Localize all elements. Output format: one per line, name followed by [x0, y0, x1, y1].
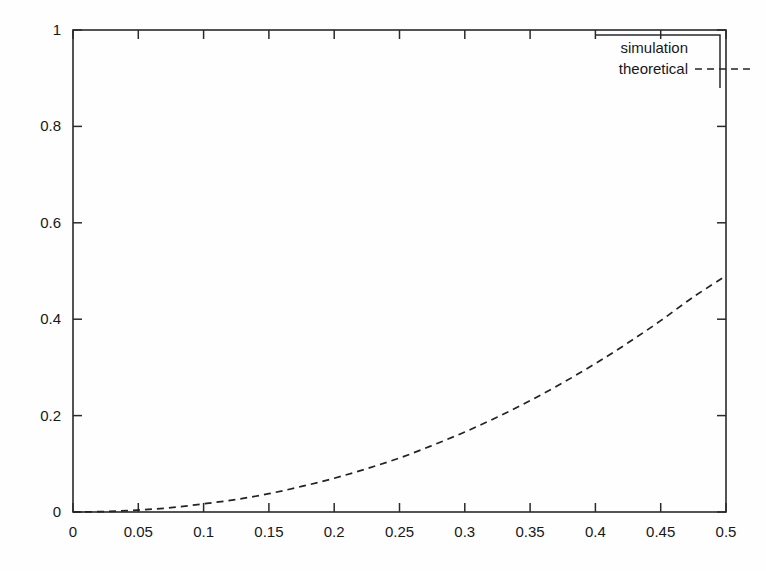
- x-tick-label: 0.2: [324, 523, 345, 540]
- x-tick-label: 0.4: [585, 523, 606, 540]
- legend-label-theoretical: theoretical: [619, 60, 688, 77]
- x-tick-label: 0.3: [454, 523, 475, 540]
- y-tick-label: 0: [53, 503, 61, 520]
- y-tick-label: 0.8: [40, 117, 61, 134]
- figure-background: [0, 0, 766, 571]
- x-tick-label: 0.05: [124, 523, 153, 540]
- y-tick-label: 1: [53, 21, 61, 38]
- x-tick-label: 0.25: [385, 523, 414, 540]
- plot-canvas: 00.050.10.150.20.250.30.350.40.450.5 00.…: [0, 0, 766, 571]
- x-tick-label: 0.45: [646, 523, 675, 540]
- x-tick-label: 0.15: [254, 523, 283, 540]
- y-tick-label: 0.6: [40, 214, 61, 231]
- chart-figure: 00.050.10.150.20.250.30.350.40.450.5 00.…: [0, 0, 766, 571]
- x-tick-label: 0: [69, 523, 77, 540]
- legend-label-simulation: simulation: [620, 39, 688, 56]
- x-tick-label: 0.35: [515, 523, 544, 540]
- x-tick-label: 0.5: [716, 523, 737, 540]
- x-tick-label: 0.1: [193, 523, 214, 540]
- y-tick-label: 0.4: [40, 310, 61, 327]
- y-tick-label: 0.2: [40, 407, 61, 424]
